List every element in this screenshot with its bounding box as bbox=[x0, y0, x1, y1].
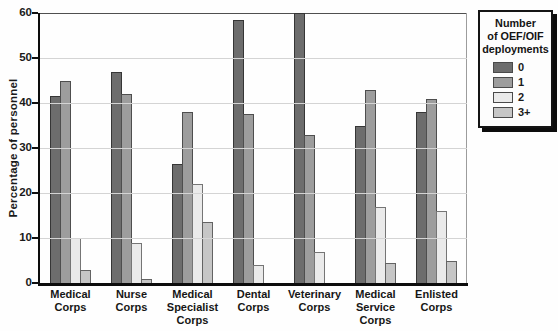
x-tick-label-dental-corps: Dental Corps bbox=[223, 288, 284, 327]
y-tick-mark-10 bbox=[32, 237, 38, 239]
y-tick-label-50: 50 bbox=[0, 51, 32, 63]
bar-medical-corps-3-plus bbox=[80, 270, 91, 284]
x-tick-label-medical-service-corps: Medical Service Corps bbox=[345, 288, 406, 327]
legend-swatch-3-plus bbox=[493, 107, 513, 118]
bar-dental-corps-1 bbox=[243, 114, 254, 283]
plot-area bbox=[40, 13, 467, 283]
y-tick-mark-0 bbox=[32, 282, 38, 284]
y-tick-label-30: 30 bbox=[0, 141, 32, 153]
legend-items: 0123+ bbox=[482, 62, 549, 118]
legend-item-label-1: 1 bbox=[518, 77, 524, 88]
x-tick-label-medical-corps: Medical Corps bbox=[40, 288, 101, 327]
legend-swatch-1 bbox=[493, 77, 513, 88]
gridline-10 bbox=[40, 238, 467, 239]
y-tick-mark-60 bbox=[32, 12, 38, 14]
y-tick-label-20: 20 bbox=[0, 186, 32, 198]
x-tick-label-medical-specialist-corps: Medical Specialist Corps bbox=[162, 288, 223, 327]
legend-item-0: 0 bbox=[493, 62, 524, 73]
bar-nurse-corps-3-plus bbox=[141, 279, 152, 284]
bar-enlisted-corps-3-plus bbox=[446, 261, 457, 284]
legend-item-2: 2 bbox=[493, 92, 524, 103]
legend-box: Numberof OEF/OIFdeployments 0123+ bbox=[478, 10, 553, 128]
bar-nurse-corps-2 bbox=[131, 243, 142, 284]
x-axis-labels: Medical CorpsNurse CorpsMedical Speciali… bbox=[40, 288, 467, 327]
legend-title-line: Number bbox=[482, 17, 549, 30]
x-axis-line bbox=[38, 283, 468, 286]
y-tick-label-60: 60 bbox=[0, 6, 32, 18]
legend-title-line: deployments bbox=[482, 43, 549, 56]
y-tick-mark-40 bbox=[32, 102, 38, 104]
bar-medical-service-corps-3-plus bbox=[385, 263, 396, 283]
y-tick-label-40: 40 bbox=[0, 96, 32, 108]
legend-item-label-2: 2 bbox=[518, 92, 524, 103]
y-tick-mark-30 bbox=[32, 147, 38, 149]
y-tick-mark-20 bbox=[32, 192, 38, 194]
legend-title: Numberof OEF/OIFdeployments bbox=[482, 17, 549, 57]
legend-swatch-0 bbox=[493, 62, 513, 73]
gridline-50 bbox=[40, 58, 467, 59]
legend-swatch-2 bbox=[493, 92, 513, 103]
x-tick-label-enlisted-corps: Enlisted Corps bbox=[406, 288, 467, 327]
x-tick-label-nurse-corps: Nurse Corps bbox=[101, 288, 162, 327]
legend-item-label-3-plus: 3+ bbox=[518, 107, 531, 118]
legend-title-line: of OEF/OIF bbox=[482, 30, 549, 43]
gridline-40 bbox=[40, 103, 467, 104]
legend-item-3-plus: 3+ bbox=[493, 107, 531, 118]
y-tick-label-0: 0 bbox=[0, 276, 32, 288]
gridline-20 bbox=[40, 193, 467, 194]
y-tick-mark-50 bbox=[32, 57, 38, 59]
bar-dental-corps-2 bbox=[253, 265, 264, 283]
bar-medical-specialist-corps-3-plus bbox=[202, 222, 213, 283]
x-tick-label-veterinary-corps: Veterinary Corps bbox=[284, 288, 345, 327]
bar-chart: Percentage of personnel 0102030405060 Me… bbox=[0, 0, 558, 331]
bar-veterinary-corps-2 bbox=[314, 252, 325, 284]
gridline-30 bbox=[40, 148, 467, 149]
legend-item-1: 1 bbox=[493, 77, 524, 88]
legend-item-label-0: 0 bbox=[518, 62, 524, 73]
y-tick-label-10: 10 bbox=[0, 231, 32, 243]
